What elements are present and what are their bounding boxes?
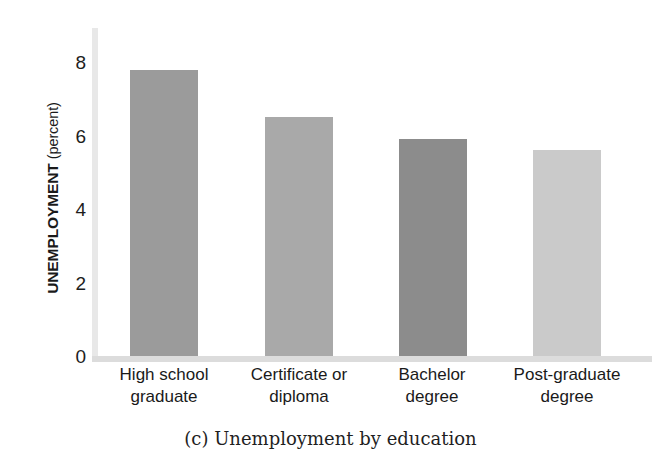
- figure-caption: (c) Unemployment by education: [0, 428, 661, 449]
- bars-layer: [0, 0, 661, 356]
- x-category-label-line: Certificate or: [219, 364, 379, 386]
- x-category-label-line: Bachelor: [362, 364, 502, 386]
- x-axis-category-labels: High schoolgraduateCertificate ordiploma…: [0, 364, 661, 424]
- bar: [399, 139, 467, 356]
- x-category-label: High schoolgraduate: [89, 364, 239, 408]
- chart-figure: UNEMPLOYMENT (percent) 02468 High school…: [0, 0, 661, 471]
- x-category-label: Bachelordegree: [362, 364, 502, 408]
- x-category-label-line: diploma: [219, 386, 379, 408]
- x-category-label: Post-graduatedegree: [482, 364, 652, 408]
- x-category-label-line: degree: [362, 386, 502, 408]
- x-axis-line: [92, 356, 652, 362]
- x-category-label-line: graduate: [89, 386, 239, 408]
- x-category-label-line: Post-graduate: [482, 364, 652, 386]
- x-category-label-line: High school: [89, 364, 239, 386]
- bar: [265, 117, 333, 356]
- x-category-label-line: degree: [482, 386, 652, 408]
- bar: [130, 70, 198, 356]
- x-category-label: Certificate ordiploma: [219, 364, 379, 408]
- bar: [533, 150, 601, 356]
